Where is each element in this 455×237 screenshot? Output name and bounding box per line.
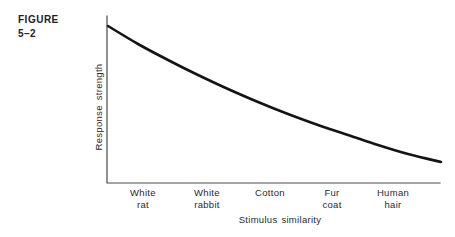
x-tick-line2: hair [377, 199, 409, 211]
x-tick-fur-coat: Fur coat [322, 187, 341, 210]
x-tick-human-hair: Human hair [377, 187, 409, 210]
figure-page: FIGURE 5–2 Response strength White rat W… [0, 0, 455, 237]
x-tick-line1: White [130, 187, 156, 199]
x-tick-line1: Cotton [255, 187, 285, 199]
x-tick-cotton: Cotton [255, 187, 285, 199]
axes-lines [107, 16, 440, 183]
x-tick-line1: White [194, 187, 220, 199]
x-tick-line2: rat [130, 199, 156, 211]
x-tick-line1: Fur [322, 187, 341, 199]
x-tick-line2: rabbit [194, 199, 220, 211]
x-axis-title: Stimulus similarity [239, 214, 322, 225]
x-tick-line2: coat [322, 199, 341, 211]
x-tick-white-rabbit: White rabbit [194, 187, 220, 210]
x-axis-ticks: White rat White rabbit Cotton Fur coat H… [0, 187, 455, 213]
y-axis-label: Response strength [93, 64, 104, 151]
x-tick-line1: Human [377, 187, 409, 199]
generalization-gradient-curve [108, 26, 441, 162]
x-tick-white-rat: White rat [130, 187, 156, 210]
